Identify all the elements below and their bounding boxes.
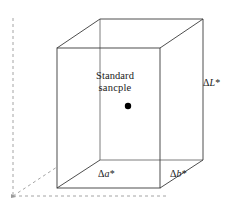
- cube-front-face-group: [57, 48, 160, 188]
- axis-label-delta-L: ΔL*: [203, 77, 220, 88]
- depth-edge-top-right: [160, 19, 203, 48]
- standard-sample-label: Standard sancple: [0, 70, 230, 94]
- axis-label-delta-b: Δb*: [170, 168, 187, 179]
- star-symbol-b: *: [182, 168, 187, 179]
- star-symbol-a: *: [110, 168, 115, 179]
- standard-sample-label-line2: sancple: [0, 82, 230, 94]
- color-difference-cube-figure: Standard sancple ΔL* Δa* Δb*: [0, 0, 230, 205]
- cube-depth-edges-group: [57, 19, 203, 188]
- cube-diagram-svg: [0, 0, 230, 205]
- axis-label-delta-a: Δa*: [98, 168, 115, 179]
- depth-edge-bottom-left: [57, 160, 100, 188]
- front-face-rect: [57, 48, 160, 188]
- depth-edge-top-left: [57, 19, 100, 48]
- star-symbol-L: *: [215, 77, 220, 88]
- dashed-diagonal-axis: [13, 167, 57, 196]
- standard-sample-label-line1: Standard: [0, 70, 230, 82]
- standard-sample-point-marker: [125, 103, 131, 109]
- dashed-axes-group: [11, 18, 168, 198]
